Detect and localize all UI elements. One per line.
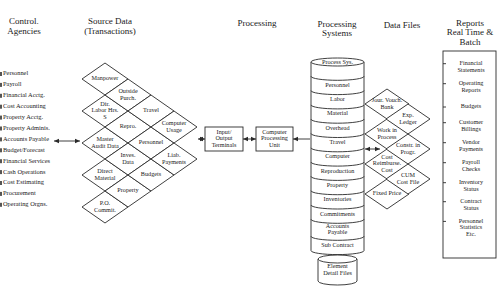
- system-segment-label: Commitments: [320, 210, 356, 217]
- source-label: Personnel: [139, 138, 164, 145]
- bullet-mark: [0, 148, 2, 152]
- header-control-agencies: Agencies: [7, 26, 41, 36]
- system-segment-label: Property: [327, 181, 349, 188]
- system-segment-label: Overhead: [325, 124, 350, 131]
- header-processing-systems: Systems: [322, 28, 353, 38]
- header-reports: Batch: [460, 37, 481, 47]
- system-segment-label: Payable: [328, 228, 348, 235]
- report-item: Status: [463, 185, 479, 192]
- data-file-label: Progr.: [401, 148, 416, 155]
- system-segment-label: Sub Contract: [321, 241, 354, 248]
- data-file-label: Fixed Price: [373, 189, 402, 196]
- source-label: Manpower: [92, 74, 119, 81]
- bullet-mark: [0, 72, 2, 76]
- element-detail-files-label: Detail Files: [323, 269, 352, 276]
- report-item: Budgets: [461, 102, 482, 109]
- agency-item: Procurement: [3, 189, 36, 196]
- source-label: Usage: [166, 126, 182, 133]
- header-source-data: Source Data: [88, 16, 132, 26]
- column-headers: Control.AgenciesSource Data(Transactions…: [7, 16, 493, 47]
- header-reports: Reports: [456, 18, 484, 28]
- reports-box: FinancialStatementsOperatingReportsBudge…: [443, 51, 496, 258]
- source-label: Audit Data: [91, 142, 119, 149]
- data-file-label: Ledger: [399, 118, 417, 125]
- agency-item: Financial Services: [3, 157, 51, 164]
- data-file-label: Process: [378, 133, 397, 140]
- report-item: Reports: [461, 86, 481, 93]
- system-segment-label: Computer: [325, 152, 350, 159]
- information-flow-diagram: Control.AgenciesSource Data(Transactions…: [0, 0, 498, 287]
- header-source-data: (Transactions): [84, 26, 136, 36]
- system-segment-label: Labor: [330, 95, 345, 102]
- system-segment-label: Material: [327, 109, 348, 116]
- agency-item: Personnel: [3, 69, 28, 76]
- agency-item: Cost Accounting: [3, 102, 47, 109]
- header-processing: Processing: [238, 18, 277, 28]
- processing-systems-cylinder: Process Sys.PersonnelLaborMaterialOverhe…: [311, 58, 364, 285]
- source-label: Repro.: [120, 122, 137, 129]
- bullet-mark: [0, 203, 2, 207]
- source-label: Material: [95, 174, 116, 181]
- agency-item: Property Acctg.: [3, 113, 44, 120]
- report-item: Payments: [459, 145, 484, 152]
- system-segment-label: Process Sys.: [322, 58, 353, 65]
- header-control-agencies: Control.: [9, 16, 39, 26]
- agency-item: Financial Acctg.: [3, 91, 45, 98]
- agency-item: Accounts Payable: [3, 135, 49, 142]
- agency-item: Cost Estimating: [3, 178, 45, 185]
- source-label: Data: [122, 158, 134, 165]
- report-item: Statements: [457, 66, 485, 73]
- system-segment-label: Travel: [330, 138, 346, 145]
- source-label: Purch.: [120, 94, 136, 101]
- bullet-mark: [0, 192, 2, 196]
- io-terminals-label: Terminals: [212, 141, 237, 148]
- bullet-mark: [0, 83, 2, 87]
- data-file-label: Cost File: [397, 178, 420, 185]
- bullet-mark: [0, 116, 2, 120]
- agency-item: Payroll: [3, 80, 22, 87]
- system-segment-label: Personnel: [325, 81, 350, 88]
- source-label: Property: [117, 186, 139, 193]
- source-label: Travel: [143, 106, 159, 113]
- report-item: Checks: [462, 165, 481, 172]
- bullet-mark: [0, 94, 2, 98]
- report-item: Etc.: [466, 230, 476, 237]
- system-segment-label: Inventories: [324, 195, 352, 202]
- source-data-diamond-grid: ManpowerDir.Labor Hrs.SMasterAudit DataD…: [82, 63, 197, 223]
- bullet-mark: [0, 170, 2, 174]
- data-file-label: Bank: [380, 103, 394, 110]
- bullet-mark: [0, 137, 2, 141]
- report-item: Status: [463, 204, 479, 211]
- bullet-mark: [0, 159, 2, 163]
- bullet-mark: [0, 105, 2, 109]
- agency-item: Budget/Forecast: [3, 146, 45, 153]
- source-label: S: [103, 113, 107, 120]
- agency-item: Operating Orgns.: [3, 200, 48, 207]
- bullet-mark: [0, 127, 2, 131]
- source-label: Budgets: [141, 170, 162, 177]
- report-item: Billings: [461, 125, 481, 132]
- agency-item: Cash Operations: [3, 168, 46, 175]
- source-label: Payments: [162, 158, 187, 165]
- data-file-label: Cost: [381, 166, 393, 173]
- control-agencies-list: PersonnelPayrollFinancial Acctg.Cost Acc…: [0, 69, 51, 207]
- source-label: Commit.: [94, 206, 116, 213]
- header-data-files: Data Files: [384, 20, 421, 30]
- agency-item: Property Adminis.: [3, 124, 50, 131]
- system-segment-label: Reproduction: [321, 167, 355, 174]
- header-reports: Real Time &: [447, 27, 494, 37]
- bullet-mark: [0, 181, 2, 185]
- cpu-label: Unit: [269, 141, 280, 148]
